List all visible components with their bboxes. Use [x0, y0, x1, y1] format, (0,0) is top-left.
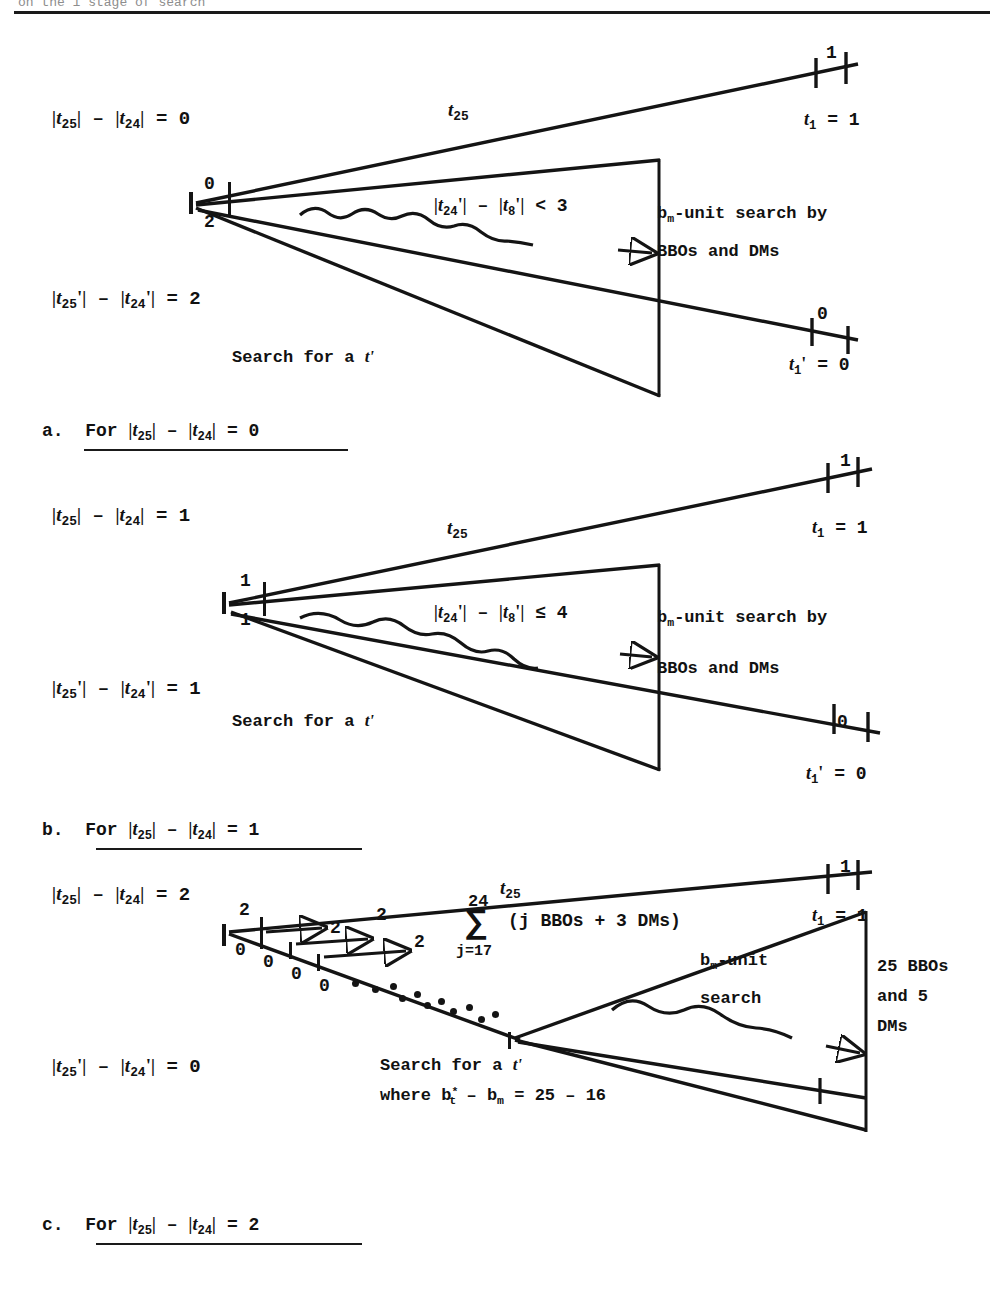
panel-a-caption: a. For |t25| – |t24| = 0 [42, 421, 259, 443]
panel-a-endpoint-bottom-tick-label: 0 [817, 305, 828, 323]
panel-a-tick-lower [228, 199, 231, 216]
panel-b-apex-cap [222, 592, 226, 614]
panel-c-summation-lower: j=17 [456, 944, 492, 959]
panel-b-tick-lower [263, 599, 266, 616]
panel-b-endpoint-bottom-label: t1' = 0 [806, 764, 867, 786]
panel-a-search-note-1: bm-unit search by [657, 205, 827, 224]
panel-b-caption: b. For |t25| – |t24| = 1 [42, 820, 259, 842]
page-header-text: on the 1 stage of search [18, 0, 438, 9]
panel-b-inequality: |t24'| – |t8'| ≤ 4 [434, 603, 568, 625]
panel-c-summation-body: (j BBOs + 3 DMs) [508, 912, 681, 930]
panel-c-search-note-2: search [700, 990, 761, 1007]
panel-b-search-caption: Search for a t' [232, 712, 374, 730]
panel-c-apex-cap [222, 924, 226, 946]
panel-b-endpoint-top-label: t1 = 1 [812, 518, 868, 540]
panel-c-tick-3l [317, 954, 320, 971]
panel-c-search-caption-2: where b*t – bm = 25 – 16 [380, 1086, 606, 1106]
panel-c-trail-dot [466, 1004, 473, 1011]
panel-a-node-label-upper: 0 [204, 175, 215, 193]
panel-c-tick-2l [289, 942, 292, 959]
panel-c-trail-dot [438, 998, 445, 1005]
panel-c-tick-1l [260, 932, 263, 949]
panel-b-node-label-upper: 1 [240, 572, 251, 590]
panel-a-node-label-lower: 2 [204, 213, 215, 231]
panel-c-upper-step-0: 2 [239, 901, 250, 919]
panel-b-branch-label: t25 [447, 518, 468, 542]
panel-a-tick-upper [228, 182, 231, 199]
scanned-page: on the 1 stage of search |t25| – |t24| =… [0, 0, 1004, 1294]
panel-b-endpoint-bottom-tick-label: 0 [837, 713, 848, 731]
panel-a-caption-underline [84, 449, 348, 451]
panel-c-endpoint-top-label: t1 = 1 [812, 906, 868, 928]
panel-c-caption-underline [96, 1243, 362, 1245]
panel-c-search-note-1: bm-unit [700, 952, 768, 971]
panel-a-endpoint-top-label: t1 = 1 [804, 110, 860, 132]
panel-a-search-caption: Search for a t' [232, 348, 374, 366]
panel-b-left-label-bottom: |t25'| – |t24'| = 1 [52, 678, 201, 702]
panel-c-trail-dot [478, 1016, 485, 1023]
panel-c-sigma-icon: ∑ [466, 906, 486, 940]
panel-a-apex-cap [189, 192, 193, 214]
panel-c-trail-dot [399, 995, 406, 1002]
panel-b-search-note-1: bm-unit search by [657, 609, 827, 628]
panel-a-inequality: |t24'| – |t8'| < 3 [434, 196, 568, 218]
panel-b-caption-underline [96, 848, 362, 850]
panel-c-upper-step-3: 2 [414, 933, 425, 951]
panel-c-trail-dot [414, 991, 421, 998]
panel-a-search-note-2: BBOs and DMs [657, 243, 779, 260]
panel-c-lower-step-0: 0 [235, 941, 246, 959]
panel-a-endpoint-top-tick-label: 1 [826, 44, 837, 62]
panel-c-trail-dot [390, 983, 397, 990]
panel-c-lower-step-3: 0 [319, 977, 330, 995]
panel-a-branch-label: t25 [448, 100, 469, 124]
panel-c-right-note-3: DMs [877, 1018, 908, 1035]
panel-c-caption: c. For |t25| – |t24| = 2 [42, 1215, 259, 1237]
panel-c-left-label-bottom: |t25'| – |t24'| = 0 [52, 1056, 201, 1080]
panel-a-left-label-top: |t25| – |t24| = 0 [52, 108, 190, 132]
panel-c-right-note-2: and 5 [877, 988, 928, 1005]
panel-c-trail-dot [352, 980, 359, 987]
panel-b-endpoint-top-tick-label: 1 [840, 452, 851, 470]
panel-c-trail-dot [372, 986, 379, 993]
panel-c-trail-dot [492, 1011, 499, 1018]
panel-c-trail-dot [450, 1008, 457, 1015]
panel-b-left-label-top: |t25| – |t24| = 1 [52, 505, 190, 529]
panel-c-right-note-1: 25 BBOs [877, 958, 948, 975]
panel-c-lower-step-1: 0 [263, 953, 274, 971]
panel-c-lower-step-2: 0 [291, 965, 302, 983]
panel-c-endpoint-top-tick-label: 1 [840, 858, 851, 876]
panel-c-upper-step-1: 2 [330, 919, 341, 937]
panel-c-left-label-top: |t25| – |t24| = 2 [52, 884, 190, 908]
panel-b-search-note-2: BBOs and DMs [657, 660, 779, 677]
panel-a-lines [196, 52, 858, 397]
panel-a-left-label-bottom: |t25'| – |t24'| = 2 [52, 288, 201, 312]
panel-c-branch-label: t25 [500, 878, 521, 902]
panel-b-node-label-lower: 1 [240, 611, 251, 629]
panel-a-endpoint-bottom-label: t1' = 0 [789, 355, 850, 377]
header-rule [14, 11, 990, 14]
panel-c-trail-dot [424, 1002, 431, 1009]
panel-c-upper-step-2: 2 [376, 906, 387, 924]
panel-c-tick-merge [508, 1032, 511, 1049]
panel-c-search-caption-1: Search for a t' [380, 1056, 522, 1074]
panel-b-tick-upper [263, 582, 266, 599]
